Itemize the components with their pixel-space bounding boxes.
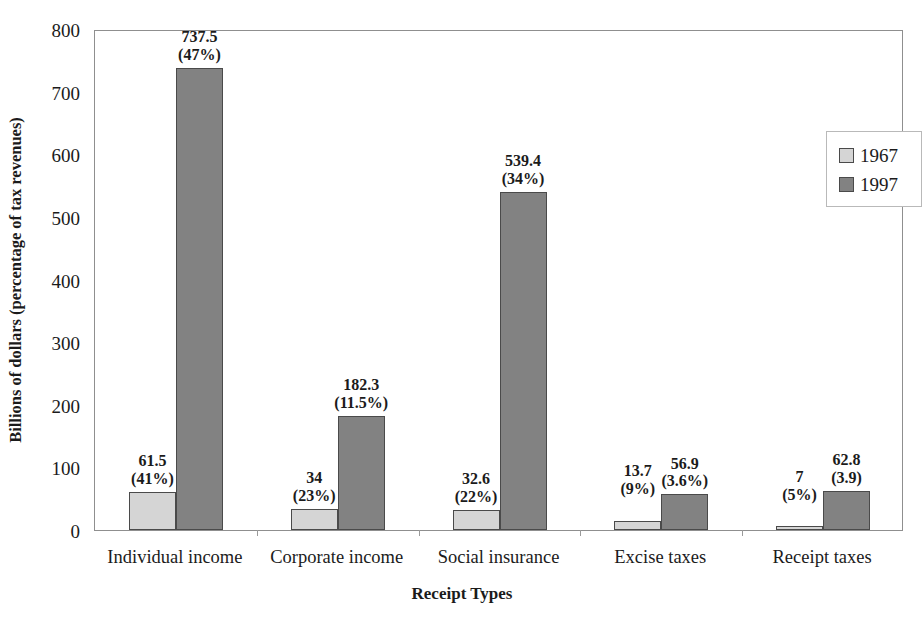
plot-inner: 61.5(41%)737.5(47%)34(23%)182.3(11.5%)32… [95, 31, 902, 530]
bar-value-number: 62.8 [831, 451, 862, 469]
bar-value-percent: (47%) [178, 46, 221, 64]
legend-item-1997: 1997 [839, 170, 921, 199]
x-axis-category-label: Corporate income [270, 548, 403, 567]
bar-1967-social-insurance [453, 510, 500, 530]
bar-1997-individual-income [176, 68, 223, 530]
legend-label-1967: 1967 [860, 146, 898, 165]
y-axis-tick-label: 700 [52, 83, 81, 102]
bar-1997-excise-taxes [661, 494, 708, 530]
y-axis-title-text: Billions of dollars (percentage of tax r… [6, 117, 26, 443]
y-axis-tick-label: 100 [52, 459, 81, 478]
bar-value-label: 539.4(34%) [502, 152, 545, 188]
bar-value-percent: (9%) [620, 480, 655, 498]
bar-chart: Billions of dollars (percentage of tax r… [0, 0, 924, 628]
bar-value-label: 737.5(47%) [178, 28, 221, 64]
bar-value-label: 56.9(3.6%) [661, 455, 708, 491]
bar-value-number: 34 [293, 469, 336, 487]
y-axis-tick-label: 300 [52, 334, 81, 353]
bar-value-number: 737.5 [178, 28, 221, 46]
bar-value-number: 7 [782, 468, 817, 486]
bar-1967-corporate-income [291, 509, 338, 530]
bar-value-percent: (34%) [502, 170, 545, 188]
x-axis-category-label: Social insurance [438, 548, 560, 567]
legend-item-1967: 1967 [839, 141, 921, 170]
x-axis-tick-mark [419, 530, 420, 536]
legend-label-1997: 1997 [860, 175, 898, 194]
bar-1997-social-insurance [500, 192, 547, 530]
bar-value-label: 7(5%) [782, 468, 817, 504]
bar-value-number: 539.4 [502, 152, 545, 170]
y-axis-tick-label: 200 [52, 396, 81, 415]
bar-value-number: 61.5 [131, 452, 174, 470]
bar-value-percent: (22%) [455, 488, 498, 506]
y-axis-tick-label: 500 [52, 208, 81, 227]
bar-value-label: 61.5(41%) [131, 452, 174, 488]
bar-value-label: 13.7(9%) [620, 462, 655, 498]
x-axis-tick-mark [742, 530, 743, 536]
bar-value-percent: (41%) [131, 470, 174, 488]
x-axis-category-label: Receipt taxes [773, 548, 872, 567]
bar-value-label: 62.8(3.9) [831, 451, 862, 487]
x-axis-category-label: Excise taxes [614, 548, 706, 567]
plot-area: 61.5(41%)737.5(47%)34(23%)182.3(11.5%)32… [94, 30, 903, 531]
bar-value-percent: (5%) [782, 486, 817, 504]
bar-value-label: 34(23%) [293, 469, 336, 505]
y-axis-tick-label: 0 [71, 522, 81, 541]
y-axis-tick-label: 600 [52, 146, 81, 165]
x-axis-title: Receipt Types [0, 584, 924, 604]
bar-1967-excise-taxes [614, 521, 661, 530]
y-axis-tick-label: 400 [52, 271, 81, 290]
y-axis-tick-labels: 0100200300400500600700800 [28, 0, 88, 628]
bar-value-percent: (3.9) [831, 469, 862, 487]
x-axis-tick-mark [580, 530, 581, 536]
bar-value-percent: (23%) [293, 487, 336, 505]
bar-1967-individual-income [129, 492, 176, 531]
bar-1967-receipt-taxes [776, 526, 823, 530]
bar-value-number: 182.3 [334, 376, 388, 394]
bar-value-number: 13.7 [620, 462, 655, 480]
chart-legend: 1967 1997 [826, 131, 922, 207]
bar-value-percent: (11.5%) [334, 394, 388, 412]
x-axis-tick-mark [257, 530, 258, 536]
bar-value-number: 32.6 [455, 470, 498, 488]
bar-value-label: 32.6(22%) [455, 470, 498, 506]
bar-1997-receipt-taxes [823, 491, 870, 530]
bar-value-label: 182.3(11.5%) [334, 376, 388, 412]
y-axis-title: Billions of dollars (percentage of tax r… [4, 30, 28, 530]
bar-value-percent: (3.6%) [661, 472, 708, 490]
x-axis-category-label: Individual income [107, 548, 242, 567]
bar-value-number: 56.9 [661, 455, 708, 473]
legend-swatch-icon-1967 [839, 148, 854, 163]
bar-1997-corporate-income [338, 416, 385, 530]
legend-swatch-icon-1997 [839, 177, 854, 192]
y-axis-tick-label: 800 [52, 21, 81, 40]
